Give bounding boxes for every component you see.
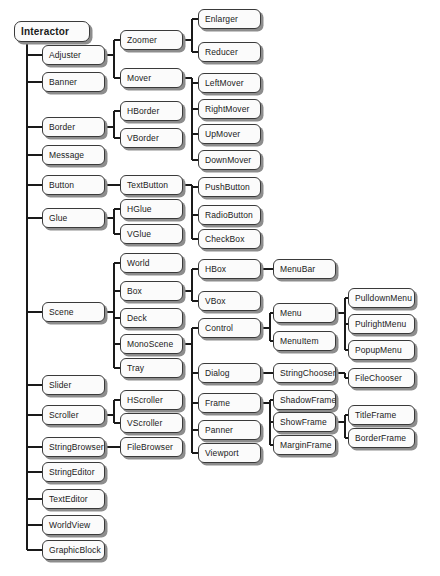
class-node-downmover[interactable]: DownMover (198, 150, 261, 170)
class-node-banner[interactable]: Banner (42, 72, 105, 92)
class-node-menu[interactable]: Menu (273, 303, 336, 323)
class-node-message[interactable]: Message (42, 145, 105, 165)
class-node-hglue[interactable]: HGlue (120, 199, 183, 219)
class-node-pushbutton[interactable]: PushButton (198, 177, 261, 197)
class-node-control[interactable]: Control (198, 318, 261, 338)
class-node-graphicblock[interactable]: GraphicBlock (42, 540, 105, 560)
class-node-popupmenu[interactable]: PopupMenu (348, 340, 415, 360)
class-node-pulldownmenu[interactable]: PulldownMenu (348, 288, 415, 308)
class-node-glue[interactable]: Glue (42, 208, 105, 228)
class-node-scroller[interactable]: Scroller (42, 405, 105, 425)
class-node-interactor[interactable]: Interactor (14, 21, 90, 42)
class-node-checkbox[interactable]: CheckBox (198, 229, 261, 249)
class-node-button[interactable]: Button (42, 175, 105, 195)
class-node-stringchooser[interactable]: StringChooser (273, 363, 336, 383)
class-node-stringeditor[interactable]: StringEditor (42, 462, 105, 482)
class-node-deck[interactable]: Deck (120, 308, 183, 328)
class-node-filechooser[interactable]: FileChooser (348, 368, 415, 388)
class-node-hscroller[interactable]: HScroller (120, 390, 183, 410)
class-node-upmover[interactable]: UpMover (198, 124, 261, 144)
class-node-filebrowser[interactable]: FileBrowser (120, 437, 183, 457)
class-node-slider[interactable]: Slider (42, 375, 105, 395)
class-node-leftmover[interactable]: LeftMover (198, 73, 261, 93)
class-node-textbutton[interactable]: TextButton (120, 175, 183, 195)
class-node-world[interactable]: World (120, 253, 183, 273)
class-node-box[interactable]: Box (120, 281, 183, 301)
class-node-scene[interactable]: Scene (42, 302, 105, 322)
class-node-menuitem[interactable]: MenuItem (273, 331, 336, 351)
class-node-zoomer[interactable]: Zoomer (120, 30, 183, 50)
class-node-frame[interactable]: Frame (198, 393, 261, 413)
class-node-adjuster[interactable]: Adjuster (42, 45, 105, 65)
class-node-rightmover[interactable]: RightMover (198, 99, 261, 119)
class-node-monoscene[interactable]: MonoScene (120, 334, 183, 354)
class-node-radiobutton[interactable]: RadioButton (198, 205, 261, 225)
class-node-dialog[interactable]: Dialog (198, 363, 261, 383)
class-hierarchy-diagram: InteractorAdjusterBannerBorderMessageBut… (0, 0, 440, 576)
class-node-vbox[interactable]: VBox (198, 291, 261, 311)
class-node-mover[interactable]: Mover (120, 68, 183, 88)
class-node-viewport[interactable]: Viewport (198, 443, 261, 463)
class-node-enlarger[interactable]: Enlarger (198, 9, 261, 29)
class-node-vglue[interactable]: VGlue (120, 224, 183, 244)
class-node-vborder[interactable]: VBorder (120, 128, 183, 148)
class-node-reducer[interactable]: Reducer (198, 42, 261, 62)
class-node-hborder[interactable]: HBorder (120, 101, 183, 121)
class-node-hbox[interactable]: HBox (198, 259, 261, 279)
class-node-border[interactable]: Border (42, 117, 105, 137)
class-node-tray[interactable]: Tray (120, 358, 183, 378)
class-node-texteditor[interactable]: TextEditor (42, 489, 105, 509)
class-node-showframe[interactable]: ShowFrame (273, 412, 336, 432)
class-node-borderframe[interactable]: BorderFrame (348, 428, 415, 448)
class-node-worldview[interactable]: WorldView (42, 515, 105, 535)
class-node-shadowframe[interactable]: ShadowFrame (273, 390, 336, 410)
class-node-vscroller[interactable]: VScroller (120, 413, 183, 433)
class-node-panner[interactable]: Panner (198, 420, 261, 440)
class-node-marginframe[interactable]: MarginFrame (273, 435, 336, 455)
class-node-stringbrowser[interactable]: StringBrowser (42, 437, 105, 457)
class-node-menubar[interactable]: MenuBar (273, 259, 336, 279)
class-node-pulrightmenu[interactable]: PulrightMenu (348, 314, 415, 334)
class-node-titleframe[interactable]: TitleFrame (348, 405, 415, 425)
